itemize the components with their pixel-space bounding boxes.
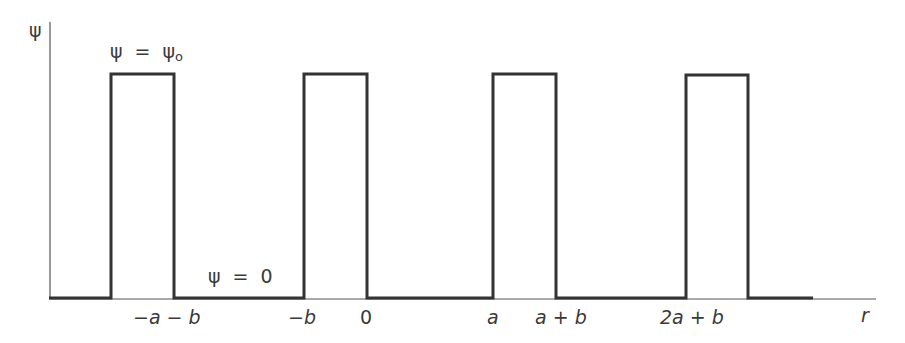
psi-symbol: ψ [29,19,42,41]
tick-label-neg-a-neg-b: −a − b [133,308,201,327]
x-axis-label: r [861,306,869,325]
tick-label-a: a [487,308,499,327]
subscript-zero: o [175,49,183,64]
tick-label-zero: 0 [360,308,372,327]
y-axis-label: ψ [29,21,42,40]
equals-sign: = [233,265,249,287]
tick-label-a-plus-b: a + b [535,308,587,327]
high-level-annotation: ψ = ψo [110,42,183,63]
square-wave-curve [49,74,813,298]
low-level-annotation: ψ = 0 [208,267,273,286]
tick-label-neg-b: −b [288,308,316,327]
psi-symbol: ψ [110,40,123,62]
equals-sign: = [135,40,151,62]
diagram-canvas: ψ r ψ = ψo ψ = 0 −a − b −b 0 a a + b 2a … [0,0,905,343]
tick-label-2a-plus-b: 2a + b [660,308,724,327]
psi-symbol: ψ [163,40,176,62]
r-symbol: r [861,304,869,326]
psi-symbol: ψ [208,265,221,287]
zero-value: 0 [261,265,273,287]
